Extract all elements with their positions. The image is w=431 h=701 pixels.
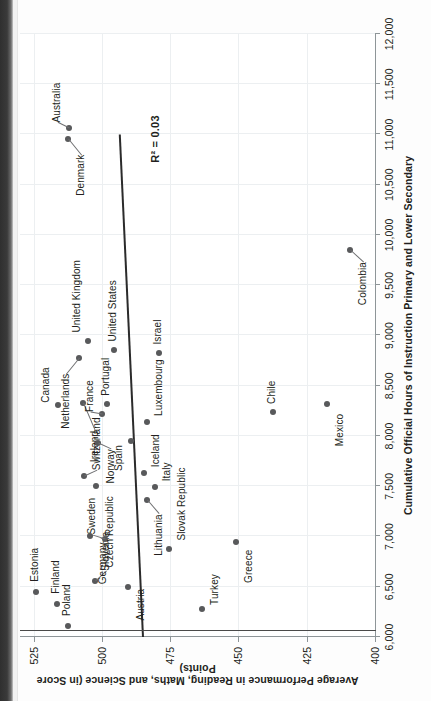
y-tick	[34, 637, 35, 642]
x-tick	[375, 485, 380, 486]
x-tick	[375, 234, 380, 235]
point-label: Ireland	[89, 431, 100, 462]
point-label: Finland	[50, 560, 61, 594]
x-tick-label: 6,500	[383, 573, 395, 600]
gridline-vertical	[20, 536, 375, 537]
x-tick	[375, 435, 380, 436]
point-label: United States	[107, 280, 118, 341]
point-label: Netherlands	[60, 374, 71, 429]
data-point	[65, 623, 71, 629]
gridline-vertical	[20, 385, 375, 386]
x-tick	[375, 335, 380, 336]
point-label: Canada	[40, 367, 51, 403]
gridline-vertical	[20, 435, 375, 436]
y-tick	[307, 637, 308, 642]
point-label: Poland	[61, 584, 72, 616]
point-label: Colombia	[357, 262, 368, 305]
r-squared-annotation: R² = 0.03	[149, 115, 161, 162]
point-label: Mexico	[334, 414, 345, 446]
plot-area	[20, 34, 375, 637]
data-point	[87, 534, 93, 540]
x-tick	[375, 536, 380, 537]
point-label: Czech Republic	[104, 496, 115, 567]
point-label: Australia	[51, 83, 62, 123]
y-axis-line	[20, 636, 376, 637]
point-label: Israel	[152, 320, 163, 345]
point-label: Spain	[113, 445, 124, 471]
data-point	[93, 483, 99, 489]
point-label: Sweden	[86, 498, 97, 535]
point-label: Italy	[161, 462, 172, 481]
data-point	[111, 347, 117, 353]
x-axis-title: Cumulative Official Hours of Instruction…	[402, 34, 414, 637]
x-tick-label: 11,500	[383, 68, 395, 100]
data-point	[104, 401, 110, 407]
x-tick-label: 10,000	[383, 219, 395, 252]
point-label: Denmark	[75, 155, 86, 196]
data-point	[270, 409, 276, 415]
x-tick-label: 8,000	[383, 423, 395, 450]
gridline-vertical	[20, 134, 375, 135]
x-tick-label: 11,000	[383, 119, 395, 151]
gridline-vertical	[20, 586, 375, 587]
x-tick-label: 8,500	[383, 372, 395, 399]
point-label: Estonia	[29, 548, 40, 582]
gridline-vertical	[20, 33, 375, 34]
x-tick-label: 9,000	[383, 322, 395, 349]
x-tick-label: 7,000	[383, 523, 395, 550]
x-tick-label: 10,500	[383, 168, 395, 201]
y-axis-title: Average Performance in Reading, Maths, a…	[20, 663, 375, 687]
data-point	[199, 606, 205, 612]
gridline-vertical	[20, 83, 375, 84]
x-tick-label: 9,500	[383, 272, 395, 299]
gridline-vertical	[20, 184, 375, 185]
y-tick	[102, 637, 103, 642]
point-label: Turkey	[209, 574, 220, 605]
point-label: Luxembourg	[153, 359, 164, 416]
data-point	[156, 350, 162, 356]
point-label: France	[84, 380, 95, 412]
x-tick	[375, 134, 380, 135]
data-point	[233, 539, 239, 545]
data-point	[33, 589, 39, 595]
gridline-vertical	[20, 485, 375, 486]
point-label: Portugal	[100, 358, 111, 396]
x-tick-label: 7,500	[383, 473, 395, 500]
y-tick	[170, 637, 171, 642]
data-point	[141, 470, 147, 476]
data-point	[128, 438, 134, 444]
scanned-chart-page: 6,0006,5007,0007,5008,0008,5009,0009,500…	[0, 0, 431, 701]
x-tick	[375, 385, 380, 386]
x-tick	[375, 33, 380, 34]
point-label: Greece	[243, 550, 254, 583]
point-label: Chile	[266, 381, 277, 404]
y-tick	[375, 637, 376, 642]
reference-line	[20, 630, 376, 631]
data-point	[85, 338, 91, 344]
rotated-chart-canvas: 6,0006,5007,0007,5008,0008,5009,0009,500…	[0, 0, 431, 701]
point-label: United Kingdom	[71, 260, 82, 333]
gridline-vertical	[20, 234, 375, 235]
data-point	[125, 584, 131, 590]
gridline-horizontal	[307, 34, 308, 637]
data-point	[144, 419, 150, 425]
gridline-vertical	[20, 335, 375, 336]
gridline-horizontal	[34, 34, 35, 637]
point-label: Lithuania	[153, 514, 164, 556]
x-tick	[375, 284, 380, 285]
y-tick	[238, 637, 239, 642]
x-tick	[375, 83, 380, 84]
x-tick	[375, 586, 380, 587]
data-point	[324, 401, 330, 407]
x-tick-label: 6,000	[383, 624, 395, 651]
point-label: Slovak Republic	[176, 467, 187, 540]
data-point	[166, 546, 172, 552]
x-tick-label: 12,000	[383, 18, 395, 51]
data-point	[54, 601, 60, 607]
point-label: Iceland	[150, 434, 161, 467]
chart-figure: 6,0006,5007,0007,5008,0008,5009,0009,500…	[0, 0, 431, 701]
point-label: Austria	[135, 589, 146, 621]
x-tick	[375, 184, 380, 185]
data-point	[152, 484, 158, 490]
gridline-horizontal	[238, 34, 239, 637]
